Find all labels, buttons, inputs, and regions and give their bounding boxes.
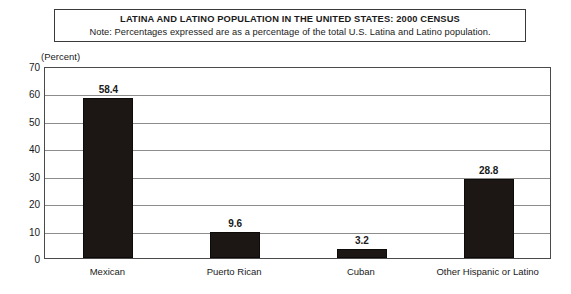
y-axis-tick-label: 70 <box>6 62 40 73</box>
y-axis-tick-label: 10 <box>6 226 40 237</box>
bar[interactable] <box>337 249 387 258</box>
bar-group[interactable]: 58.4 <box>83 66 133 258</box>
y-axis-tick-label: 30 <box>6 171 40 182</box>
bar-group[interactable]: 3.2 <box>337 66 387 258</box>
x-axis-tick-label: Other Hispanic or Latino <box>436 266 538 277</box>
bar-value-label: 9.6 <box>210 218 260 229</box>
bar[interactable] <box>210 232 260 258</box>
page-title: LATINA AND LATINO POPULATION IN THE UNIT… <box>120 13 460 26</box>
bar-value-label: 3.2 <box>337 235 387 246</box>
y-axis: 706050403020100 <box>4 67 40 259</box>
bar-group[interactable]: 9.6 <box>210 66 260 258</box>
plot-area: 58.49.63.228.8 <box>44 67 551 259</box>
y-axis-unit-label: (Percent) <box>41 51 80 62</box>
bar[interactable] <box>83 98 133 258</box>
y-axis-tick-label: 50 <box>6 116 40 127</box>
chart-title-box: LATINA AND LATINO POPULATION IN THE UNIT… <box>54 9 526 42</box>
y-axis-tick-label: 20 <box>6 199 40 210</box>
bar-group[interactable]: 28.8 <box>464 66 514 258</box>
y-axis-tick-label: 40 <box>6 144 40 155</box>
bar-value-label: 28.8 <box>464 165 514 176</box>
y-axis-tick-label: 0 <box>6 254 40 265</box>
x-axis-tick-label: Mexican <box>90 266 125 277</box>
x-axis-tick-label: Puerto Rican <box>207 266 262 277</box>
chart-note: Note: Percentages expressed are as a per… <box>89 26 490 39</box>
bar[interactable] <box>464 179 514 258</box>
x-axis-tick-label: Cuban <box>347 266 375 277</box>
bar-value-label: 58.4 <box>83 84 133 95</box>
y-axis-tick-label: 60 <box>6 89 40 100</box>
